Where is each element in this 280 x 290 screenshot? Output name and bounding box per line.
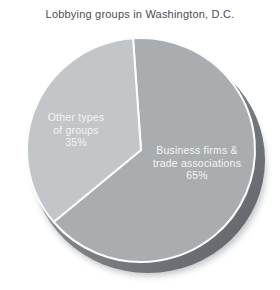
pie-chart-figure: Lobbying groups in Washington, D.C. Busi… [0,0,280,290]
pie-chart: Business firms &trade associations65%Oth… [0,0,280,290]
